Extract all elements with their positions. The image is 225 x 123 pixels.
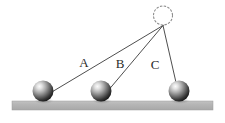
- string-label-c: C: [151, 57, 160, 72]
- sphere-group: [33, 81, 190, 102]
- physics-diagram-figure: A B C: [0, 0, 225, 123]
- string-label-group: A B C: [79, 55, 159, 72]
- diagram-canvas: A B C: [0, 0, 225, 123]
- string-label-b: B: [116, 56, 125, 71]
- sphere-b: [91, 81, 112, 102]
- pivot-point-icon: [154, 6, 173, 25]
- sphere-a: [33, 81, 54, 102]
- sphere-c: [169, 81, 190, 102]
- string-label-a: A: [79, 55, 89, 70]
